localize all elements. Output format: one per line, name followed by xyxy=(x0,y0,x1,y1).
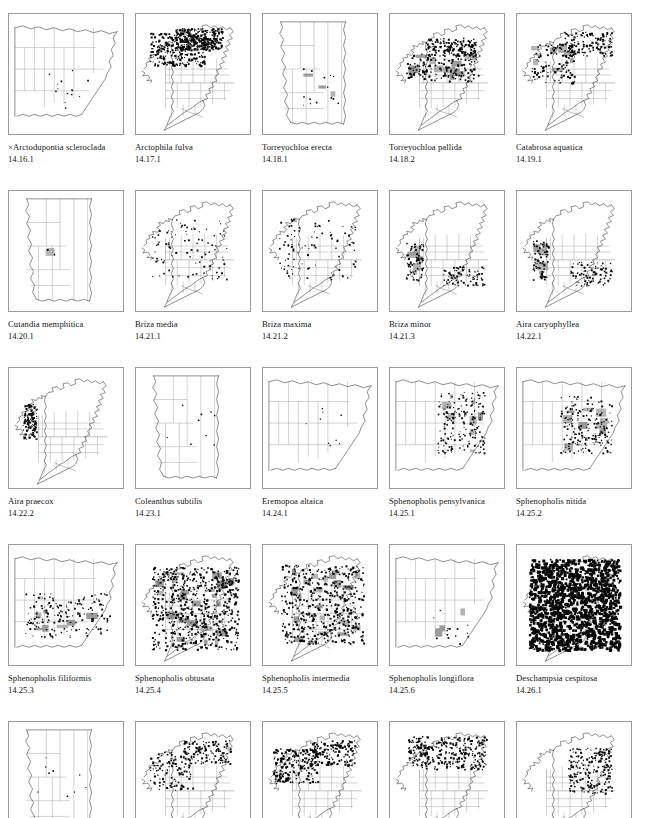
map-caption: Cutandia memphitica14.20.1 xyxy=(8,319,130,342)
map-caption: Sphenopholis intermedia14.25.5 xyxy=(262,673,384,696)
distribution-map[interactable] xyxy=(135,190,251,312)
taxon-number: 14.25.5 xyxy=(262,685,384,696)
map-caption: Coleanthus subtilis14.23.1 xyxy=(135,496,257,519)
map-grid: ×Arctodupontia scleroclada14.16.1Arctoph… xyxy=(0,0,650,818)
species-name: Aira praecox xyxy=(8,496,130,507)
distribution-map[interactable] xyxy=(8,367,124,489)
map-caption: Sphenopholis filiformis14.25.3 xyxy=(8,673,130,696)
species-name: Arctophila fulva xyxy=(135,142,257,153)
map-caption: Briza minor14.21.3 xyxy=(389,319,511,342)
map-cell: Sphenopholis pensylvanica14.25.1 xyxy=(389,367,516,544)
distribution-map[interactable] xyxy=(135,544,251,666)
map-cell: Arctophila fulva14.17.1 xyxy=(135,13,262,190)
species-name: Briza minor xyxy=(389,319,511,330)
distribution-map[interactable] xyxy=(516,13,632,135)
species-name: Torreyochloa erecta xyxy=(262,142,384,153)
taxon-number: 14.23.1 xyxy=(135,508,257,519)
species-name: Aira caryophyllea xyxy=(516,319,638,330)
map-cell: Cutandia memphitica14.20.1 xyxy=(8,190,135,367)
map-caption: Eremopoa altaica14.24.1 xyxy=(262,496,384,519)
species-name: Sphenopholis obtusata xyxy=(135,673,257,684)
distribution-map[interactable] xyxy=(389,544,505,666)
map-cell xyxy=(389,721,516,818)
distribution-map[interactable] xyxy=(516,190,632,312)
map-cell: Coleanthus subtilis14.23.1 xyxy=(135,367,262,544)
species-name: Coleanthus subtilis xyxy=(135,496,257,507)
taxon-number: 14.17.1 xyxy=(135,154,257,165)
distribution-map[interactable] xyxy=(8,544,124,666)
map-caption: Arctophila fulva14.17.1 xyxy=(135,142,257,165)
map-caption: Sphenopholis pensylvanica14.25.1 xyxy=(389,496,511,519)
taxon-number: 14.26.1 xyxy=(516,685,638,696)
map-cell xyxy=(135,721,262,818)
species-name: Catabrosa aquatica xyxy=(516,142,638,153)
species-name: Torreyochloa pallida xyxy=(389,142,511,153)
species-name: Sphenopholis longiflora xyxy=(389,673,511,684)
taxon-number: 14.20.1 xyxy=(8,331,130,342)
distribution-map[interactable] xyxy=(389,190,505,312)
map-caption: Briza maxima14.21.2 xyxy=(262,319,384,342)
taxon-number: 14.16.1 xyxy=(8,154,130,165)
taxon-number: 14.25.2 xyxy=(516,508,638,519)
taxon-number: 14.18.2 xyxy=(389,154,511,165)
species-name: Deschampsia cespitosa xyxy=(516,673,638,684)
distribution-map[interactable] xyxy=(389,367,505,489)
map-cell: Sphenopholis filiformis14.25.3 xyxy=(8,544,135,721)
species-name: Briza media xyxy=(135,319,257,330)
taxon-number: 14.21.2 xyxy=(262,331,384,342)
map-cell xyxy=(516,721,643,818)
map-cell xyxy=(8,721,135,818)
taxon-number: 14.25.6 xyxy=(389,685,511,696)
map-cell: Sphenopholis nitida14.25.2 xyxy=(516,367,643,544)
taxon-number: 14.21.3 xyxy=(389,331,511,342)
taxon-number: 14.24.1 xyxy=(262,508,384,519)
map-cell: Aira praecox14.22.2 xyxy=(8,367,135,544)
distribution-map[interactable] xyxy=(8,721,124,818)
taxon-number: 14.25.3 xyxy=(8,685,130,696)
map-cell: Aira caryophyllea14.22.1 xyxy=(516,190,643,367)
distribution-map[interactable] xyxy=(135,721,251,818)
distribution-map[interactable] xyxy=(135,367,251,489)
distribution-map[interactable] xyxy=(8,190,124,312)
species-name: Sphenopholis intermedia xyxy=(262,673,384,684)
map-cell: Briza maxima14.21.2 xyxy=(262,190,389,367)
distribution-map[interactable] xyxy=(135,13,251,135)
distribution-map[interactable] xyxy=(262,190,378,312)
map-caption: Torreyochloa erecta14.18.1 xyxy=(262,142,384,165)
distribution-map[interactable] xyxy=(262,721,378,818)
map-cell: Torreyochloa pallida14.18.2 xyxy=(389,13,516,190)
atlas-page: ×Arctodupontia scleroclada14.16.1Arctoph… xyxy=(0,0,650,818)
species-name: Sphenopholis nitida xyxy=(516,496,638,507)
species-name: ×Arctodupontia scleroclada xyxy=(8,142,130,153)
map-caption: Sphenopholis longiflora14.25.6 xyxy=(389,673,511,696)
taxon-number: 14.25.1 xyxy=(389,508,511,519)
species-name: Sphenopholis pensylvanica xyxy=(389,496,511,507)
map-cell: Briza media14.21.1 xyxy=(135,190,262,367)
distribution-map[interactable] xyxy=(262,13,378,135)
taxon-number: 14.22.1 xyxy=(516,331,638,342)
species-name: Sphenopholis filiformis xyxy=(8,673,130,684)
distribution-map[interactable] xyxy=(262,544,378,666)
species-name: Eremopoa altaica xyxy=(262,496,384,507)
map-caption: Torreyochloa pallida14.18.2 xyxy=(389,142,511,165)
map-caption: Briza media14.21.1 xyxy=(135,319,257,342)
distribution-map[interactable] xyxy=(516,544,632,666)
map-cell: Torreyochloa erecta14.18.1 xyxy=(262,13,389,190)
distribution-map[interactable] xyxy=(262,367,378,489)
distribution-map[interactable] xyxy=(389,721,505,818)
map-cell: Deschampsia cespitosa14.26.1 xyxy=(516,544,643,721)
distribution-map[interactable] xyxy=(516,721,632,818)
map-caption: Sphenopholis obtusata14.25.4 xyxy=(135,673,257,696)
map-caption: Aira praecox14.22.2 xyxy=(8,496,130,519)
map-cell: Sphenopholis longiflora14.25.6 xyxy=(389,544,516,721)
map-cell: Eremopoa altaica14.24.1 xyxy=(262,367,389,544)
map-cell: Sphenopholis intermedia14.25.5 xyxy=(262,544,389,721)
distribution-map[interactable] xyxy=(516,367,632,489)
distribution-map[interactable] xyxy=(8,13,124,135)
map-cell: ×Arctodupontia scleroclada14.16.1 xyxy=(8,13,135,190)
distribution-map[interactable] xyxy=(389,13,505,135)
map-caption: Deschampsia cespitosa14.26.1 xyxy=(516,673,638,696)
map-caption: Aira caryophyllea14.22.1 xyxy=(516,319,638,342)
map-cell: Sphenopholis obtusata14.25.4 xyxy=(135,544,262,721)
taxon-number: 14.25.4 xyxy=(135,685,257,696)
